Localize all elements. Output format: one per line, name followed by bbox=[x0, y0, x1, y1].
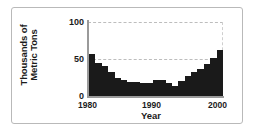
chart-figure-frame: Thousands of Metric Tons 100 50 0 1980 1… bbox=[11, 7, 243, 124]
y-tick-label-50: 50 bbox=[62, 54, 84, 64]
x-tick-label-1980: 1980 bbox=[78, 100, 97, 110]
x-tick-label-1990: 1990 bbox=[142, 100, 161, 110]
y-axis-title-line2: Metric Tons bbox=[29, 29, 39, 81]
bar-series bbox=[89, 22, 223, 96]
x-axis-title: Year bbox=[72, 110, 230, 121]
x-tick-label-2000: 2000 bbox=[208, 100, 227, 110]
y-axis-title: Thousands of Metric Tons bbox=[12, 12, 46, 98]
plot-wrapper: 100 50 0 1980 1990 2000 Year bbox=[72, 16, 230, 121]
y-tick-label-100: 100 bbox=[62, 17, 84, 27]
bar bbox=[217, 50, 223, 96]
x-axis-line bbox=[87, 96, 224, 98]
